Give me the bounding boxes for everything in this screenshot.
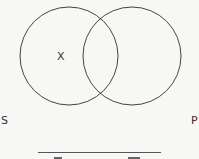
cut-off-glyph-right xyxy=(128,157,140,159)
label-p: P xyxy=(191,115,198,126)
circle-s xyxy=(20,7,118,105)
x-mark: X xyxy=(57,51,65,62)
label-s: S xyxy=(1,115,8,126)
circle-p xyxy=(83,7,181,105)
venn-diagram xyxy=(0,0,199,159)
cut-off-glyph-left xyxy=(54,157,62,159)
